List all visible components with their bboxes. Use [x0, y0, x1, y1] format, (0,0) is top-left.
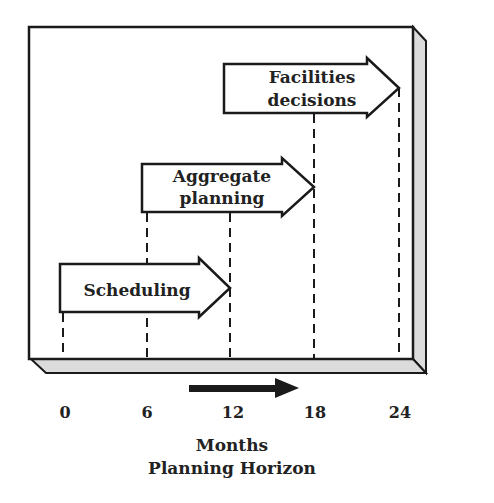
direction-arrow-icon: [189, 378, 299, 398]
tick-0: 0: [59, 403, 70, 422]
axis-title: Months: [196, 435, 268, 455]
frame-shadow-bottom: [31, 359, 426, 373]
arrow-label-line1: Facilities: [269, 67, 356, 87]
tick-6: 6: [141, 403, 152, 422]
tick-labels: 0 6 12 18 24: [59, 403, 411, 422]
planning-horizon-diagram: Facilities decisions Aggregate planning …: [0, 0, 494, 503]
arrow-label-line2: planning: [180, 188, 265, 208]
arrow-label: Scheduling: [83, 280, 190, 300]
frame-shadow-right: [413, 27, 426, 373]
tick-12: 12: [222, 403, 244, 422]
arrow-label-line2: decisions: [268, 90, 357, 110]
arrow-aggregate-planning: Aggregate planning: [142, 158, 314, 216]
tick-24: 24: [389, 403, 411, 422]
arrow-facilities-decisions: Facilities decisions: [224, 58, 399, 117]
arrow-scheduling: Scheduling: [60, 258, 230, 317]
arrow-label-line1: Aggregate: [172, 166, 271, 186]
tick-18: 18: [304, 403, 326, 422]
axis-subtitle: Planning Horizon: [148, 458, 316, 478]
